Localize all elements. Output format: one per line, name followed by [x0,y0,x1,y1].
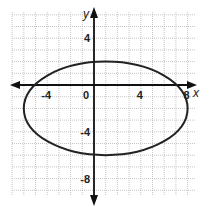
y-axis-up-arrow-icon [90,7,98,18]
y-tick-label: -4 [80,126,91,138]
x-tick-label: 0 [83,89,89,101]
x-tick-label: 4 [137,89,144,101]
y-axis-label: y [82,7,90,21]
y-tick-label: 4 [84,32,91,44]
coordinate-plane: -40484-4-8 x y [0,0,204,220]
chart-container: -40484-4-8 x y [0,0,204,220]
y-tick-label: -8 [80,173,90,185]
axes [10,7,197,206]
x-tick-label: -4 [41,89,52,101]
x-axis-label: x [192,86,200,100]
tick-labels: -40484-4-8 [41,32,189,184]
x-axis-left-arrow-icon [10,81,20,89]
y-axis-down-arrow-icon [90,195,98,206]
grid-lines [12,12,195,196]
x-tick-label: 8 [184,89,190,101]
